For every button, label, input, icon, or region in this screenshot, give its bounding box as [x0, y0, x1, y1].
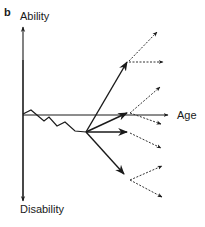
ability-trajectory-line: [23, 110, 86, 132]
solid-branch-arrows: [86, 62, 127, 174]
disability-label: Disability: [20, 203, 64, 215]
panel-label: b: [4, 6, 11, 18]
ability-age-diagram: b Ability Disability Age: [0, 0, 205, 227]
diagram-canvas: [0, 0, 205, 227]
age-label: Age: [177, 109, 197, 121]
ability-label: Ability: [20, 10, 49, 22]
